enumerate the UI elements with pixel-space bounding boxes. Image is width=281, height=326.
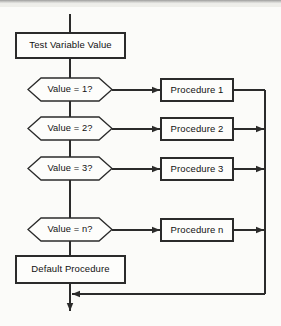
- process-start-label: Test Variable Value: [16, 40, 125, 50]
- flowchart-canvas: Test Variable Value Value = 1? Value = 2…: [0, 0, 281, 326]
- decision-label-2: Value = 2?: [28, 124, 112, 133]
- decision-label-4: Value = n?: [28, 225, 112, 234]
- procedure-label-1: Procedure 1: [161, 85, 233, 95]
- process-default-label: Default Procedure: [16, 264, 125, 274]
- procedure-label-4: Procedure n: [161, 225, 233, 235]
- procedure-label-2: Procedure 2: [161, 124, 233, 134]
- decision-label-1: Value = 1?: [28, 85, 112, 94]
- decision-label-3: Value = 3?: [28, 164, 112, 173]
- procedure-label-3: Procedure 3: [161, 164, 233, 174]
